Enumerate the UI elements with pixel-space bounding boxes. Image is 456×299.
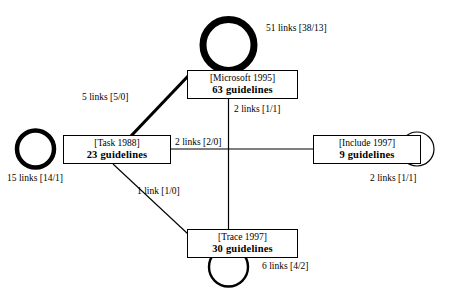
label-self-loop-trace: 6 links [4/2]	[262, 261, 308, 272]
self-loop-microsoft	[203, 20, 254, 71]
label-self-loop-task: 15 links [14/1]	[7, 173, 63, 184]
node-trace[interactable]: [Trace 1997] 30 guidelines	[187, 229, 298, 258]
node-trace-count: 30 guidelines	[212, 243, 273, 255]
node-trace-title: [Trace 1997]	[218, 232, 267, 243]
node-include[interactable]: [Include 1997] 9 guidelines	[313, 135, 421, 164]
diagram-canvas: [Microsoft 1995] 63 guidelines [Task 198…	[0, 0, 456, 299]
label-edge-microsoft-trace: 2 links [1/1]	[234, 104, 280, 115]
node-include-title: [Include 1997]	[339, 138, 395, 149]
edge-task-microsoft	[131, 74, 190, 136]
label-edge-task-microsoft: 5 links [5/0]	[82, 92, 128, 103]
node-microsoft[interactable]: [Microsoft 1995] 63 guidelines	[187, 70, 298, 99]
self-loop-task	[17, 131, 54, 168]
node-task-title: [Task 1988]	[94, 138, 140, 149]
label-self-loop-include: 2 links [1/1]	[370, 173, 416, 184]
node-include-count: 9 guidelines	[339, 149, 394, 161]
edge-task-trace	[113, 164, 188, 234]
node-microsoft-title: [Microsoft 1995]	[210, 73, 275, 84]
node-microsoft-count: 63 guidelines	[212, 84, 273, 96]
node-task-count: 23 guidelines	[87, 149, 148, 161]
node-task[interactable]: [Task 1988] 23 guidelines	[63, 135, 171, 164]
label-edge-task-trace: 1 link [1/0]	[137, 186, 180, 197]
label-edge-task-include: 2 links [2/0]	[175, 137, 221, 148]
label-self-loop-microsoft: 51 links [38/13]	[266, 23, 327, 34]
